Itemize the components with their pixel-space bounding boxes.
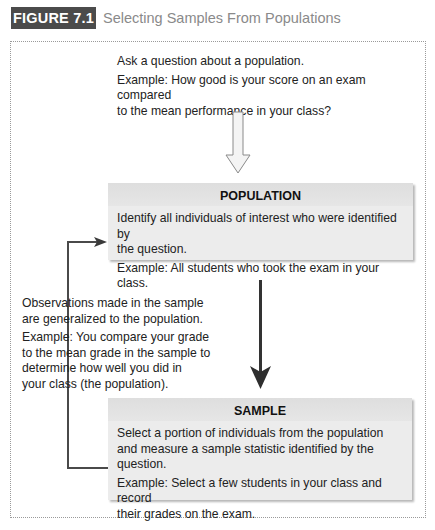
feedback-bottom-line [67,467,108,469]
hollow-down-arrow-icon [224,111,252,175]
sample-heading: SAMPLE [108,398,412,421]
population-text-line1: Identify all individuals of interest who… [117,211,404,242]
sample-text-line2: and measure a sample statistic identifie… [117,442,403,473]
question-text: Ask a question about a population. Examp… [117,54,417,119]
population-heading: POPULATION [108,183,413,206]
question-example-line2: to the mean performance in your class? [117,104,417,120]
generalize-example-line3: determine how well you did in [22,361,212,377]
question-example-line1: Example: How good is your score on an ex… [117,73,417,104]
solid-down-arrowhead-icon [250,366,271,390]
sample-box: SAMPLE Select a portion of individuals f… [108,398,412,500]
generalize-text: Observations made in the sample are gene… [22,296,212,392]
population-box: POPULATION Identify all individuals of i… [108,183,413,260]
feedback-top-line [67,241,97,243]
generalize-example-line1: Example: You compare your grade [22,330,212,346]
generalize-example-line2: to the mean grade in the sample to [22,346,212,362]
generalize-example-line4: your class (the population). [22,377,212,393]
sample-text-line1: Select a portion of individuals from the… [117,426,403,442]
sample-example-line1: Example: Select a few students in your c… [117,476,403,507]
generalize-line2: are generalized to the population. [22,312,212,328]
feedback-arrowhead-icon [94,236,108,248]
figure-label: FIGURE 7.1 [11,7,96,29]
generalize-line1: Observations made in the sample [22,296,212,312]
figure-title: Selecting Samples From Populations [103,8,341,28]
population-text-line2: the question. [117,242,404,258]
question-line: Ask a question about a population. [117,54,417,70]
solid-arrow-shaft [259,280,262,372]
sample-example-line2: their grades on the exam. [117,507,403,523]
